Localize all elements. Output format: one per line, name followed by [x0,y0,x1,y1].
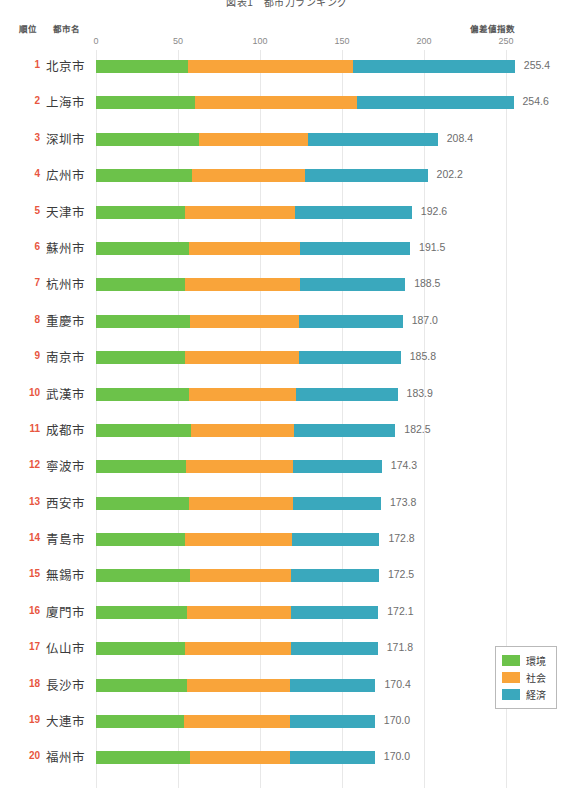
stacked-bar [96,206,412,219]
stacked-bar [96,751,375,764]
row-city-label: 広州市 [46,165,85,184]
row-rank: 5 [0,205,40,216]
bar-segment-environment [96,133,199,146]
chart-row: 16廈門市172.1 [0,596,574,632]
row-rank: 20 [0,750,40,761]
bar-segment-society [187,679,290,692]
bar-segment-environment [96,351,185,364]
row-rank: 17 [0,641,40,652]
bar-segment-economy [296,388,398,401]
bar-segment-economy [293,460,382,473]
row-rank: 9 [0,350,40,361]
stacked-bar [96,460,382,473]
bar-segment-economy [294,424,396,437]
row-rank: 15 [0,568,40,579]
row-city-label: 蘇州市 [46,238,85,257]
chart-row: 7杭州市188.5 [0,268,574,304]
chart-row: 1北京市255.4 [0,50,574,86]
row-rank: 4 [0,168,40,179]
stacked-bar [96,315,403,328]
bar-segment-economy [299,315,402,328]
chart-row: 15無錫市172.5 [0,559,574,595]
bar-segment-society [188,60,353,73]
bar-segment-society [187,606,291,619]
legend-label: 経済 [526,687,546,702]
legend-item[interactable]: 社会 [502,669,550,686]
bar-segment-economy [357,96,514,109]
row-rank: 7 [0,277,40,288]
stacked-bar [96,351,401,364]
row-rank: 1 [0,59,40,70]
chart-row: 4広州市202.2 [0,159,574,195]
row-total-value: 182.5 [404,423,430,435]
row-rank: 11 [0,423,40,434]
row-rank: 3 [0,132,40,143]
x-axis-tick-label: 50 [173,36,183,46]
x-axis-tick-label: 250 [498,36,513,46]
chart-row: 11成都市182.5 [0,414,574,450]
bar-segment-environment [96,388,189,401]
bar-segment-environment [96,679,187,692]
chart-row: 13西安市173.8 [0,487,574,523]
column-header-index: 偏差値指数 [470,22,515,34]
bar-segment-society [189,497,293,510]
stacked-bar [96,715,375,728]
chart-title: 図表1 都市力ランキング [0,0,574,9]
row-city-label: 西安市 [46,493,85,512]
bar-segment-society [185,278,301,291]
row-city-label: 南京市 [46,347,85,366]
bar-segment-society [190,751,289,764]
bar-segment-economy [353,60,515,73]
row-rank: 19 [0,714,40,725]
row-rank: 14 [0,532,40,543]
row-total-value: 174.3 [391,459,417,471]
bar-segment-economy [293,497,381,510]
chart-row: 5天津市192.6 [0,196,574,232]
bar-segment-environment [96,606,187,619]
row-city-label: 大連市 [46,711,85,730]
stacked-bar [96,679,375,692]
bar-segment-environment [96,242,189,255]
bar-segment-environment [96,715,184,728]
row-city-label: 無錫市 [46,565,85,584]
bar-segment-society [189,242,300,255]
row-rank: 8 [0,314,40,325]
row-total-value: 188.5 [414,277,440,289]
stacked-bar [96,133,438,146]
stacked-bar [96,388,398,401]
chart-root: 図表1 都市力ランキング 順位 都市名 偏差値指数 05010015020025… [0,0,574,804]
stacked-bar [96,278,405,291]
stacked-bar [96,569,379,582]
row-city-label: 長沙市 [46,675,85,694]
bar-segment-environment [96,315,190,328]
bar-segment-environment [96,169,192,182]
column-header-city: 都市名 [53,22,80,34]
bar-segment-society [185,351,298,364]
chart-row: 2上海市254.6 [0,86,574,122]
bar-segment-society [186,460,293,473]
bar-segment-society [189,388,296,401]
bar-segment-environment [96,533,185,546]
legend-item[interactable]: 経済 [502,686,550,703]
row-city-label: 福州市 [46,747,85,766]
row-rank: 13 [0,496,40,507]
stacked-bar [96,424,395,437]
bar-segment-society [191,424,294,437]
bar-segment-environment [96,60,188,73]
chart-row: 10武漢市183.9 [0,378,574,414]
bar-segment-economy [291,569,379,582]
row-rank: 10 [0,387,40,398]
legend-item[interactable]: 環境 [502,652,550,669]
bar-segment-environment [96,569,190,582]
chart-row: 19大連市170.0 [0,705,574,741]
bar-segment-economy [291,606,378,619]
row-rank: 18 [0,678,40,689]
row-city-label: 武漢市 [46,384,85,403]
stacked-bar [96,497,381,510]
row-city-label: 天津市 [46,202,85,221]
stacked-bar [96,642,378,655]
bar-segment-economy [292,533,379,546]
bar-segment-society [190,569,291,582]
chart-row: 3深圳市208.4 [0,123,574,159]
bar-segment-society [195,96,357,109]
